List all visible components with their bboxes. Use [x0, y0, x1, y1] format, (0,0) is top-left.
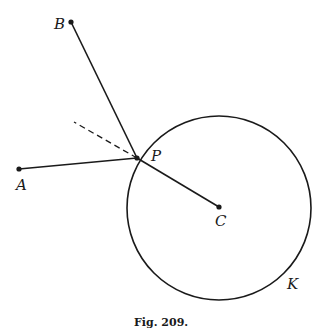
point-p-dot — [134, 155, 139, 160]
label-p: P — [150, 147, 162, 165]
label-a: A — [14, 176, 27, 194]
label-k: K — [286, 275, 299, 293]
label-c: C — [215, 212, 227, 230]
segment-pc — [137, 158, 219, 207]
point-b-dot — [68, 19, 73, 24]
point-c-dot — [216, 204, 221, 209]
label-b: B — [53, 15, 65, 33]
figure-caption: Fig. 209. — [134, 316, 188, 329]
point-a-dot — [16, 166, 21, 171]
geometry-figure: B A P C K Fig. 209. — [0, 0, 327, 332]
segment-bp — [71, 22, 137, 158]
segment-ap — [19, 158, 137, 169]
